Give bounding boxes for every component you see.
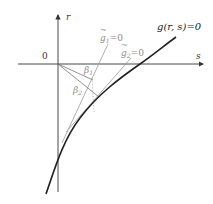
linearization-2-label: g2=0: [121, 49, 144, 59]
beta-1-label: β1: [84, 66, 93, 76]
r-axis-label: r: [66, 13, 70, 22]
constraint-curve: [46, 37, 176, 194]
tilde-g1: g: [100, 34, 106, 43]
tilde-g2: g: [121, 49, 127, 58]
dotted-guide: [92, 78, 94, 112]
beta-2-label: β2: [73, 86, 82, 96]
beta-2-subscript: 2: [78, 89, 82, 96]
linearization-1-label: g1=0: [100, 34, 123, 44]
g2-suffix: =0: [131, 48, 144, 58]
reliability-diagram: r s 0 g(r, s)=0 g1=0 g2=0 β1 β2: [0, 0, 213, 204]
constraint-curve-label: g(r, s)=0: [157, 22, 201, 32]
beta-1-subscript: 1: [89, 69, 93, 76]
s-axis-label: s: [196, 52, 201, 61]
origin-label: 0: [42, 52, 48, 61]
